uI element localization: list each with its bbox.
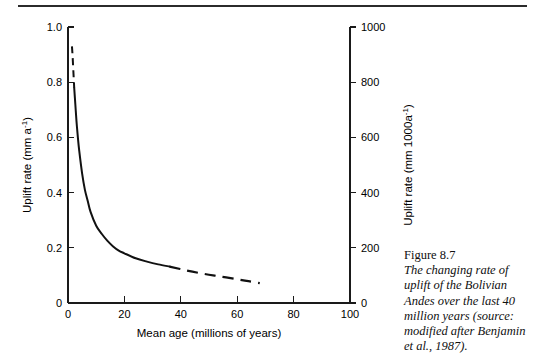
y-ticklabel-1: 0.2 [47,242,62,254]
y-axis-left-ticklabels: 0 0.2 0.4 0.6 0.8 1.0 [47,21,62,309]
x-axis-ticklabels: 0 20 40 60 80 100 [65,308,359,320]
y-axis-left-title-close: ) [21,117,33,121]
x-ticklabel-0: 0 [65,308,71,320]
x-ticklabel-3: 60 [231,308,243,320]
uplift-curve-dashed-young [72,46,74,87]
y-axis-right-title: Uplift rate (mm 1000a-1) [401,104,414,226]
figure-caption: Figure 8.7 The changing rate of uplift o… [404,248,532,354]
figure-caption-title: Figure 8.7 [404,248,532,263]
y-axis-left-title: Uplift rate (mm a-1) [20,117,33,213]
y2-ticklabel-4: 800 [361,76,379,88]
data-curve-group [72,46,260,283]
y-axis-right-ticks [350,27,356,303]
y-axis-right-title-main: Uplift rate (mm 1000a [402,115,414,226]
y-axis-right-ticklabels: 0 200 400 600 800 1000 [361,21,385,309]
y2-ticklabel-1: 200 [361,242,379,254]
x-ticklabel-2: 40 [175,308,187,320]
y2-ticklabel-0: 0 [361,297,367,309]
y2-ticklabel-2: 400 [361,187,379,199]
uplift-curve-solid [74,88,169,267]
figure-caption-body: The changing rate of uplift of the Boliv… [404,263,532,354]
figure-page: 0 0.2 0.4 0.6 0.8 1.0 0 200 400 600 800 … [0,0,535,363]
uplift-curve-dashed-old [170,267,260,284]
x-ticklabel-1: 20 [118,308,130,320]
x-axis-ticks [68,296,350,303]
y-ticklabel-5: 1.0 [47,21,62,33]
y2-ticklabel-3: 600 [361,131,379,143]
y-ticklabel-2: 0.4 [47,187,62,199]
y-axis-right-title-close: ) [402,104,414,108]
y-ticklabel-4: 0.8 [47,76,62,88]
y2-ticklabel-5: 1000 [361,21,385,33]
y-axis-left-ticks [68,27,74,303]
y-axis-left-title-main: Uplift rate (mm a [21,127,33,213]
x-axis-title: Mean age (millions of years) [137,327,282,339]
y-ticklabel-3: 0.6 [47,131,62,143]
x-ticklabel-4: 80 [287,308,299,320]
x-ticklabel-5: 100 [341,308,359,320]
y-ticklabel-0: 0 [56,297,62,309]
